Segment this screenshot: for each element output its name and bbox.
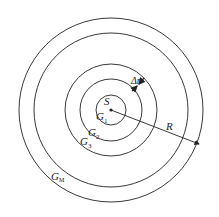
center-label: S: [104, 95, 110, 107]
ring-label-gm: GM: [51, 170, 65, 183]
center-point: [109, 108, 112, 111]
ring-width-label: Δr: [130, 75, 141, 86]
diagram-canvas: S G1 G2 G3 GM Δr R: [0, 0, 219, 217]
radius-label: R: [165, 120, 173, 132]
ring-label-g2: G2: [88, 126, 100, 141]
ring-label-g1: G1: [96, 110, 108, 125]
concentric-circles-diagram: S G1 G2 G3 GM Δr R: [0, 0, 219, 217]
